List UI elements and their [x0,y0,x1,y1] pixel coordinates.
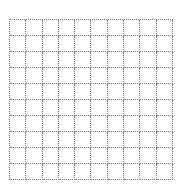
grid-cell [43,116,59,132]
grid-cell [75,148,91,164]
grid-cell [124,84,140,100]
grid-cell [59,164,75,180]
grid-cell [26,132,42,148]
grid-cell [59,68,75,84]
grid-cell [43,100,59,116]
grid-cell [43,84,59,100]
grid-cell [26,164,42,180]
grid-cell [59,36,75,52]
grid-cell [108,148,124,164]
grid-cell [43,68,59,84]
grid-cell [157,84,173,100]
grid-cell [75,116,91,132]
grid-cell [124,100,140,116]
grid-cell [124,20,140,36]
grid-cell [10,84,26,100]
grid-cell [10,68,26,84]
grid-cell [140,148,156,164]
grid-cell [75,164,91,180]
grid-cell [124,116,140,132]
grid-cell [10,164,26,180]
grid-cell [157,116,173,132]
grid-cell [91,36,107,52]
grid-cell [59,148,75,164]
grid-cell [75,84,91,100]
grid-cell [59,84,75,100]
grid-cell [140,52,156,68]
grid-cell [108,20,124,36]
grid-cell [108,36,124,52]
grid-cell [140,20,156,36]
grid-cell [108,52,124,68]
grid-cell [91,68,107,84]
grid-cell [10,148,26,164]
grid-cell [108,164,124,180]
grid-cell [43,52,59,68]
grid-cell [108,116,124,132]
grid-cell [108,84,124,100]
grid-cell [43,20,59,36]
grid-cell [26,68,42,84]
grid-cell [91,100,107,116]
grid-cell [26,36,42,52]
grid-cell [59,116,75,132]
grid-cell [124,68,140,84]
grid-cell [108,68,124,84]
grid-cell [140,164,156,180]
grid-cell [59,52,75,68]
grid-cell [26,20,42,36]
grid-cell [91,20,107,36]
grid-cell [10,132,26,148]
grid-cell [43,148,59,164]
grid-cell [75,68,91,84]
grid-cell [91,148,107,164]
grid-cell [157,20,173,36]
grid-cell [10,100,26,116]
grid-cell [91,52,107,68]
grid-cell [157,164,173,180]
grid-cell [140,36,156,52]
grid-cell [91,116,107,132]
grid-cell [157,52,173,68]
grid-cell [108,132,124,148]
grid-cell [140,68,156,84]
grid-cell [10,116,26,132]
grid-cell [124,148,140,164]
grid-cell [157,68,173,84]
grid-cell [124,132,140,148]
grid-cell [124,36,140,52]
grid-cell [10,52,26,68]
grid-cell [59,100,75,116]
grid-cell [91,132,107,148]
grid-cell [75,52,91,68]
grid-cell [124,164,140,180]
grid-cell [91,164,107,180]
grid-cell [59,20,75,36]
grid-cell [75,36,91,52]
grid-cell [157,132,173,148]
grid-cell [10,20,26,36]
grid-cell [26,148,42,164]
grid-cell [124,52,140,68]
grid-cell [26,100,42,116]
grid-cell [157,148,173,164]
grid-cell [59,132,75,148]
grid-cell [26,84,42,100]
grid-cell [157,100,173,116]
dotted-grid [9,19,173,180]
grid-cell [140,116,156,132]
grid-cell [75,20,91,36]
grid-cell [140,132,156,148]
grid-cell [140,100,156,116]
grid-cell [157,36,173,52]
grid-cell [108,100,124,116]
grid-cell [75,100,91,116]
grid-cell [43,36,59,52]
grid-cell [91,84,107,100]
grid-cell [10,36,26,52]
grid-cell [140,84,156,100]
grid-cell [75,132,91,148]
grid-cell [43,132,59,148]
grid-cell [26,52,42,68]
grid-cell [26,116,42,132]
